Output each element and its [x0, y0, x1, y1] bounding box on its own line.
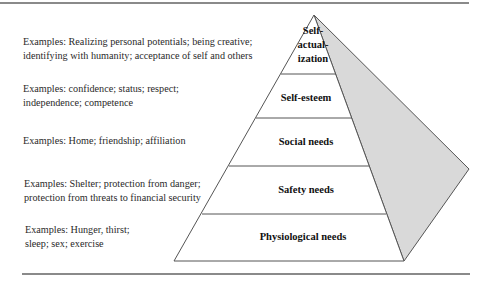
- label-line: Social needs: [279, 135, 334, 149]
- label-line: ization: [298, 52, 329, 66]
- examples-self-esteem: Examples: confidence; status; respect; i…: [23, 82, 179, 110]
- example-line: identifying with humanity; acceptance of…: [23, 49, 252, 63]
- level-label-safety-needs: Safety needs: [278, 183, 334, 197]
- level-label-self-actualization: Self- actual- ization: [298, 24, 329, 66]
- example-line: Examples: Shelter; protection from dange…: [24, 177, 201, 191]
- label-line: actual-: [298, 38, 329, 52]
- example-line: sleep; sex; exercise: [25, 237, 130, 251]
- example-line: protection from threats to financial sec…: [24, 191, 201, 205]
- examples-physiological-needs: Examples: Hunger, thirst; sleep; sex; ex…: [25, 223, 130, 251]
- level-label-social-needs: Social needs: [279, 135, 334, 149]
- example-line: Examples: Hunger, thirst;: [25, 223, 130, 237]
- examples-self-actualization: Examples: Realizing personal potentials;…: [23, 35, 252, 63]
- label-line: Self-esteem: [281, 91, 332, 105]
- example-line: independence; competence: [23, 96, 179, 110]
- level-label-self-esteem: Self-esteem: [281, 91, 332, 105]
- label-line: Safety needs: [278, 183, 334, 197]
- example-line: Examples: confidence; status; respect;: [23, 82, 179, 96]
- level-label-physiological-needs: Physiological needs: [260, 230, 347, 244]
- example-line: Examples: Realizing personal potentials;…: [23, 35, 252, 49]
- example-line: Examples: Home; friendship; affiliation: [23, 134, 186, 148]
- examples-safety-needs: Examples: Shelter; protection from dange…: [24, 177, 201, 205]
- label-line: Self-: [298, 24, 329, 38]
- label-line: Physiological needs: [260, 230, 347, 244]
- examples-social-needs: Examples: Home; friendship; affiliation: [23, 134, 186, 148]
